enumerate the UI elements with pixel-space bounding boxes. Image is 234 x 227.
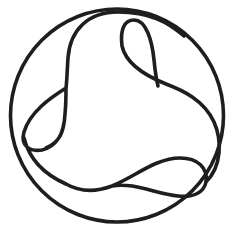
- knot-diagram: [0, 0, 234, 227]
- outer-circle: [11, 9, 224, 222]
- diagram-canvas: [0, 0, 234, 227]
